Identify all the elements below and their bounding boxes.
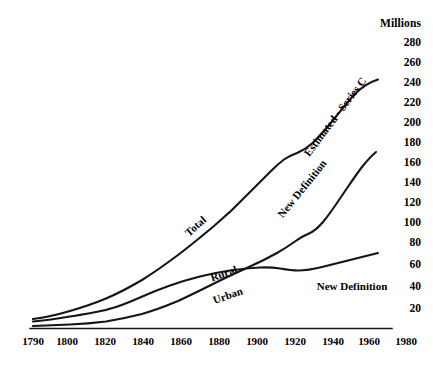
y-tick-120: 120 [404, 196, 422, 208]
y-tick-40: 40 [410, 280, 422, 292]
x-tick-1980: 1980 [395, 335, 417, 347]
x-tick-1860: 1860 [170, 335, 192, 347]
y-tick-160: 160 [404, 156, 422, 168]
series-label-urban-newdef-group: New Definition [275, 157, 329, 219]
y-tick-80: 80 [410, 236, 422, 248]
y-tick-140: 140 [404, 176, 422, 188]
x-tick-1790: 1790 [22, 335, 44, 347]
x-tick-1880: 1880 [208, 335, 230, 347]
y-tick-60: 60 [410, 258, 422, 270]
series-label-rural: Rural [209, 263, 239, 283]
y-tick-280: 280 [404, 36, 422, 48]
series-label-urban: Urban [211, 285, 244, 306]
series-label-urban-new-definition: New Definition [275, 157, 329, 219]
series-label-estimated-series-c: Estimated · Series C [301, 75, 368, 159]
y-tick-240: 240 [404, 76, 422, 88]
series-label-rural-new-definition: New Definition [317, 280, 388, 292]
x-tick-1840: 1840 [132, 335, 154, 347]
x-tick-1800: 1800 [56, 335, 78, 347]
series-label-urban-group: Urban [211, 285, 244, 306]
population-chart: Millions 280 260 240 220 200 180 160 140… [0, 0, 433, 370]
y-axis-unit-label: Millions [380, 17, 421, 29]
x-tick-1920: 1920 [284, 335, 306, 347]
y-tick-200: 200 [404, 116, 422, 128]
y-tick-180: 180 [404, 136, 422, 148]
x-tick-1820: 1820 [94, 335, 116, 347]
x-tick-1940: 1940 [322, 335, 344, 347]
y-tick-220: 220 [404, 96, 422, 108]
y-tick-260: 260 [404, 56, 422, 68]
series-label-estimated-group: Estimated · Series C [301, 75, 368, 159]
series-label-rural-group: Rural [209, 263, 239, 283]
chart-canvas: Millions 280 260 240 220 200 180 160 140… [0, 0, 433, 370]
y-tick-20: 20 [410, 302, 422, 314]
x-tick-1900: 1900 [246, 335, 268, 347]
x-tick-1960: 1960 [358, 335, 380, 347]
y-tick-100: 100 [404, 216, 422, 228]
curve-urban [33, 152, 376, 326]
